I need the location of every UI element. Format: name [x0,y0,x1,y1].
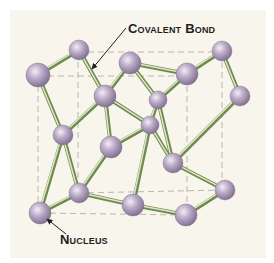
atom-nucleus [149,91,167,109]
atom-nucleus [230,86,250,106]
dashed-cell-line [40,213,186,215]
atom-nucleus [141,116,159,134]
atom-nucleus [176,63,198,85]
atom-nucleus [175,204,197,226]
covalent-bond [132,124,150,205]
atom-nucleus [29,202,51,224]
atom-nucleus [163,153,183,173]
covalent-bond [172,95,240,163]
atom-nucleus [100,136,122,158]
atom-nucleus [94,85,116,107]
covalent-bond-label: Covalent Bond [128,21,215,36]
atom-nucleus [215,180,235,200]
atom-nucleus [119,52,141,74]
dashed-cell-line [78,190,225,193]
atom-nucleus [122,194,144,216]
atom-nucleus [69,40,89,60]
atom-nucleus [69,183,89,203]
atom-nucleus [212,41,232,61]
silicon-crystal-lattice-diagram [0,0,274,263]
nucleus-label: Nucleus [60,232,108,247]
atom-nucleus [26,63,50,87]
atom-nucleus [53,125,73,145]
